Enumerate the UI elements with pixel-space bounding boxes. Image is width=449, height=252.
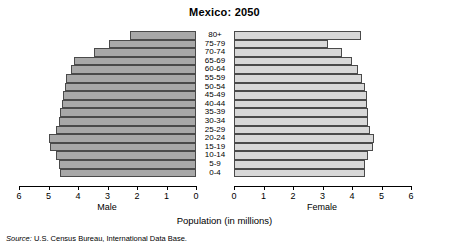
axis-tick-label: 1	[157, 191, 177, 201]
bar-row	[19, 117, 196, 126]
axis-tick	[234, 186, 235, 190]
bar-row	[19, 151, 196, 160]
female-bar-70-74	[234, 48, 342, 57]
bar-row	[19, 100, 196, 109]
bar-row	[19, 48, 196, 57]
axis-tick	[78, 186, 79, 190]
female-bar-75-79	[234, 40, 328, 49]
bar-row	[19, 65, 196, 74]
axis-tick-label: 5	[372, 191, 392, 201]
axis-tick-label: 1	[254, 191, 274, 201]
axis-tick	[323, 186, 324, 190]
female-axis-title: Female	[262, 202, 382, 212]
axis-tick-label: 0	[224, 191, 244, 201]
axis-tick	[196, 186, 197, 190]
axis-tick-label: 3	[98, 191, 118, 201]
male-bar-80+	[130, 31, 196, 40]
male-bar-65-69	[74, 57, 196, 66]
axis-tick	[167, 186, 168, 190]
bar-row	[234, 126, 411, 135]
male-bar-40-44	[62, 100, 196, 109]
bar-row	[234, 65, 411, 74]
male-bar-60-64	[71, 65, 196, 74]
axis-tick	[293, 186, 294, 190]
bar-row	[234, 100, 411, 109]
male-bar-50-54	[65, 83, 196, 92]
female-bar-50-54	[234, 83, 365, 92]
bar-row	[234, 143, 411, 152]
population-pyramid-chart: Mexico: 2050 80+75-7970-7465-6960-6455-5…	[0, 0, 449, 252]
bar-row	[19, 134, 196, 143]
male-bar-0-4	[60, 169, 196, 178]
axis-tick-label: 6	[401, 191, 421, 201]
bar-row	[234, 134, 411, 143]
female-bar-55-59	[234, 74, 362, 83]
axis-tick-label: 3	[313, 191, 333, 201]
axis-tick-label: 2	[127, 191, 147, 201]
female-bar-45-49	[234, 91, 367, 100]
bar-row	[234, 57, 411, 66]
source-note: Source: U.S. Census Bureau, Internationa…	[6, 234, 187, 243]
male-bar-15-19	[50, 143, 196, 152]
bar-row	[19, 83, 196, 92]
male-bar-5-9	[59, 160, 196, 169]
bar-row	[234, 169, 411, 178]
bar-row	[19, 74, 196, 83]
axis-tick-label: 6	[9, 191, 29, 201]
bar-row	[19, 126, 196, 135]
bar-row	[234, 160, 411, 169]
bar-row	[19, 31, 196, 40]
axis-tick	[264, 186, 265, 190]
bar-row	[234, 40, 411, 49]
axis-tick	[411, 186, 412, 190]
female-bar-20-24	[234, 134, 374, 143]
bar-row	[19, 108, 196, 117]
axis-tick-label: 4	[68, 191, 88, 201]
bar-row	[19, 91, 196, 100]
axis-tick-label: 2	[283, 191, 303, 201]
male-bar-25-29	[56, 126, 196, 135]
axis-tick	[352, 186, 353, 190]
axis-tick	[19, 186, 20, 190]
male-bar-10-14	[56, 151, 196, 160]
axis-tick	[137, 186, 138, 190]
axis-tick	[108, 186, 109, 190]
bar-row	[234, 74, 411, 83]
axis-tick	[382, 186, 383, 190]
source-text: U.S. Census Bureau, International Data B…	[32, 234, 187, 243]
male-axis-title: Male	[47, 202, 167, 212]
male-bars-panel	[19, 31, 196, 186]
male-bar-45-49	[63, 91, 196, 100]
bar-row	[19, 40, 196, 49]
age-group-labels: 80+75-7970-7465-6960-6455-5950-5445-4940…	[196, 31, 234, 186]
bar-row	[19, 57, 196, 66]
chart-title: Mexico: 2050	[0, 6, 449, 18]
male-bar-30-34	[59, 117, 196, 126]
x-axis-label: Population (in millions)	[0, 215, 449, 226]
female-bar-35-39	[234, 108, 368, 117]
female-bar-65-69	[234, 57, 352, 66]
bar-row	[234, 83, 411, 92]
male-bar-75-79	[109, 40, 196, 49]
bar-row	[19, 169, 196, 178]
bar-row	[234, 48, 411, 57]
male-bar-70-74	[94, 48, 196, 57]
female-bar-25-29	[234, 126, 370, 135]
female-bar-5-9	[234, 160, 365, 169]
female-bar-10-14	[234, 151, 368, 160]
female-bar-0-4	[234, 169, 365, 178]
bar-row	[19, 143, 196, 152]
female-bar-30-34	[234, 117, 368, 126]
female-bar-15-19	[234, 143, 373, 152]
axis-tick-label: 0	[186, 191, 206, 201]
axis-tick	[49, 186, 50, 190]
bar-row	[234, 117, 411, 126]
male-bar-55-59	[66, 74, 196, 83]
axis-tick-label: 5	[39, 191, 59, 201]
male-bar-20-24	[49, 134, 197, 143]
female-bar-40-44	[234, 100, 367, 109]
bar-row	[234, 91, 411, 100]
age-label-0-4: 0-4	[196, 169, 234, 178]
bar-row	[234, 31, 411, 40]
source-prefix: Source:	[6, 234, 32, 243]
